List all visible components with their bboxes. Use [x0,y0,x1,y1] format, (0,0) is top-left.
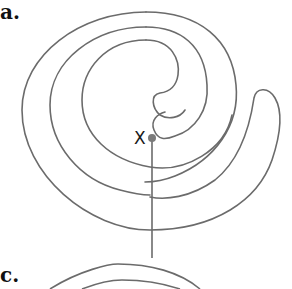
spiral-middle-right [146,27,207,138]
marker-label: X [134,128,146,148]
spiral-outer-arc [22,12,280,230]
spiral-middle-arc [50,27,150,195]
spiral-diagram: X [0,0,292,289]
spiral-inner-hook [146,40,185,118]
marker-dot [148,134,156,142]
panel-c-inner-arc [82,280,180,289]
spiral-inner-arc [82,40,232,168]
spiral-top-arc [145,12,236,182]
panel-c-outer-arc [50,264,200,289]
